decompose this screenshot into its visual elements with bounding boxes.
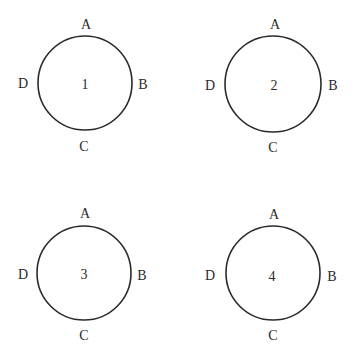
circle-diagram: A B C D 1 A B C D 2 A B C D 3 A B C D 4 — [0, 0, 356, 359]
circle-group-3: A B C D 3 — [18, 206, 147, 343]
label-top-4: A — [269, 207, 280, 222]
label-left-4: D — [205, 268, 215, 283]
label-bottom-1: C — [79, 139, 88, 154]
label-top-3: A — [80, 206, 91, 221]
circle-group-2: A B C D 2 — [205, 17, 338, 155]
circle-number-1: 1 — [82, 77, 89, 92]
label-right-1: B — [138, 77, 147, 92]
label-bottom-2: C — [268, 140, 277, 155]
label-left-2: D — [205, 78, 215, 93]
label-right-3: B — [137, 268, 146, 283]
circle-group-1: A B C D 1 — [18, 17, 148, 154]
circle-group-4: A B C D 4 — [205, 207, 337, 343]
label-left-1: D — [18, 76, 28, 91]
label-top-2: A — [270, 17, 281, 32]
circle-number-4: 4 — [269, 269, 276, 284]
circle-number-3: 3 — [81, 267, 88, 282]
label-right-4: B — [327, 269, 336, 284]
label-bottom-4: C — [268, 328, 277, 343]
label-top-1: A — [81, 17, 92, 32]
label-left-3: D — [18, 267, 28, 282]
circle-number-2: 2 — [271, 78, 278, 93]
label-bottom-3: C — [79, 328, 88, 343]
label-right-2: B — [328, 78, 337, 93]
